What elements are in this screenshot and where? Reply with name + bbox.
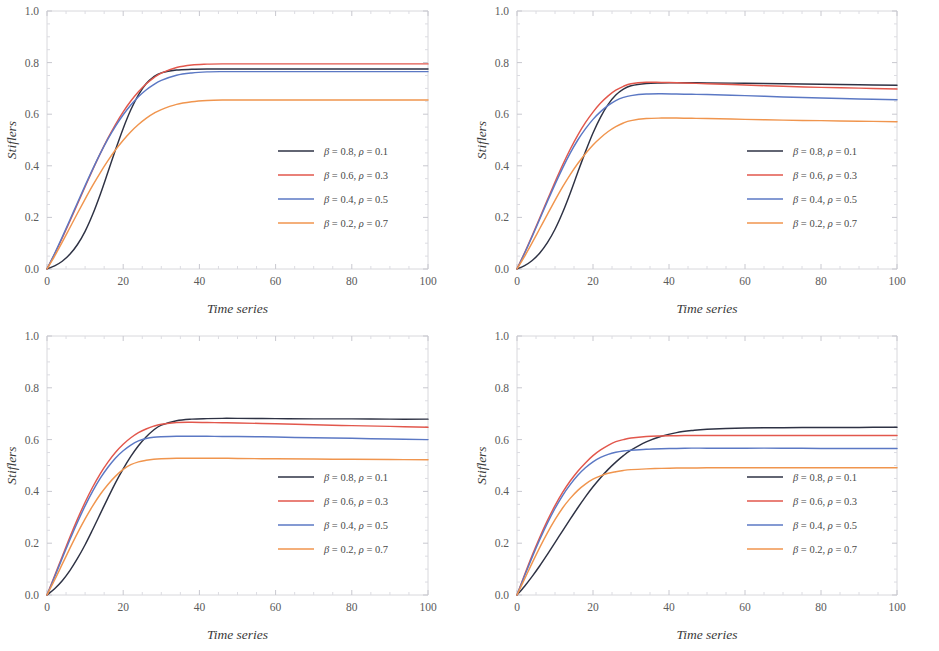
x-axis-title: Time series xyxy=(676,627,737,642)
y-tick-label: 1.0 xyxy=(25,5,40,17)
legend-item[interactable]: β = 0.6, ρ = 0.3 xyxy=(747,496,857,507)
legend-item[interactable]: β = 0.2, ρ = 0.7 xyxy=(278,218,388,229)
legend-label: β = 0.4, ρ = 0.5 xyxy=(323,194,388,205)
x-tick-label: 60 xyxy=(270,275,282,287)
legend-label: β = 0.6, ρ = 0.3 xyxy=(323,170,388,181)
legend-item[interactable]: β = 0.8, ρ = 0.1 xyxy=(278,146,388,157)
legend-item[interactable]: β = 0.4, ρ = 0.5 xyxy=(278,194,388,205)
y-tick-label: 0.0 xyxy=(25,263,40,275)
y-tick-label: 0.4 xyxy=(25,485,40,497)
y-tick-label: 0.0 xyxy=(25,589,40,601)
y-tick-label: 0.4 xyxy=(25,160,40,172)
x-tick-label: 40 xyxy=(663,275,675,287)
legend-label: β = 0.8, ρ = 0.1 xyxy=(792,472,857,483)
x-tick-label: 100 xyxy=(419,275,437,287)
y-axis-title: Stiflers xyxy=(474,446,489,484)
y-tick-label: 1.0 xyxy=(495,330,510,342)
x-tick-label: 100 xyxy=(888,601,906,613)
legend-label: β = 0.2, ρ = 0.7 xyxy=(323,218,388,229)
y-tick-label: 0.0 xyxy=(495,263,510,275)
legend-item[interactable]: β = 0.2, ρ = 0.7 xyxy=(747,544,857,555)
legend-label: β = 0.2, ρ = 0.7 xyxy=(792,544,857,555)
x-tick-label: 40 xyxy=(663,601,675,613)
y-tick-label: 0.6 xyxy=(495,434,510,446)
y-tick-label: 0.4 xyxy=(495,160,510,172)
chart-panel-top-right: 0204060801000.00.20.40.60.81.0Time serie… xyxy=(470,0,939,325)
legend-label: β = 0.8, ρ = 0.1 xyxy=(323,146,388,157)
y-tick-label: 0.2 xyxy=(25,537,40,549)
legend-item[interactable]: β = 0.6, ρ = 0.3 xyxy=(278,496,388,507)
y-axis-title: Stiflers xyxy=(4,446,19,484)
legend-item[interactable]: β = 0.8, ρ = 0.1 xyxy=(747,146,857,157)
chart-legend: β = 0.8, ρ = 0.1β = 0.6, ρ = 0.3β = 0.4,… xyxy=(278,472,388,555)
y-tick-label: 0.2 xyxy=(495,211,510,223)
y-tick-label: 0.8 xyxy=(25,382,40,394)
y-tick-label: 0.6 xyxy=(25,108,40,120)
x-tick-label: 60 xyxy=(270,601,282,613)
plot-frame xyxy=(517,336,897,595)
y-tick-label: 0.8 xyxy=(25,57,40,69)
legend-label: β = 0.4, ρ = 0.5 xyxy=(323,520,388,531)
figure-panel-grid: 0204060801000.00.20.40.60.81.0Time serie… xyxy=(0,0,939,651)
y-tick-label: 1.0 xyxy=(495,5,510,17)
x-axis-title: Time series xyxy=(207,627,268,642)
axis-ticks xyxy=(517,336,897,595)
legend-item[interactable]: β = 0.4, ρ = 0.5 xyxy=(747,194,857,205)
series-line-2 xyxy=(47,422,428,595)
x-tick-label: 60 xyxy=(739,275,751,287)
x-tick-label: 0 xyxy=(514,275,520,287)
axis-ticks xyxy=(47,11,428,269)
x-tick-label: 0 xyxy=(44,275,50,287)
x-tick-label: 40 xyxy=(194,275,206,287)
x-tick-label: 0 xyxy=(44,601,50,613)
x-tick-label: 40 xyxy=(194,601,206,613)
x-tick-label: 20 xyxy=(117,275,129,287)
legend-label: β = 0.2, ρ = 0.7 xyxy=(792,218,857,229)
legend-label: β = 0.6, ρ = 0.3 xyxy=(792,170,857,181)
legend-item[interactable]: β = 0.6, ρ = 0.3 xyxy=(278,170,388,181)
legend-label: β = 0.8, ρ = 0.1 xyxy=(323,472,388,483)
x-tick-label: 80 xyxy=(346,601,358,613)
chart-legend: β = 0.8, ρ = 0.1β = 0.6, ρ = 0.3β = 0.4,… xyxy=(747,146,857,229)
y-axis-title: Stiflers xyxy=(4,121,19,159)
x-tick-label: 100 xyxy=(419,601,437,613)
legend-item[interactable]: β = 0.8, ρ = 0.1 xyxy=(278,472,388,483)
legend-item[interactable]: β = 0.4, ρ = 0.5 xyxy=(278,520,388,531)
legend-label: β = 0.8, ρ = 0.1 xyxy=(792,146,857,157)
series-line-1 xyxy=(517,427,897,595)
legend-label: β = 0.4, ρ = 0.5 xyxy=(792,520,857,531)
plot-frame xyxy=(47,11,428,269)
legend-label: β = 0.6, ρ = 0.3 xyxy=(792,496,857,507)
y-tick-label: 0.0 xyxy=(495,589,510,601)
legend-item[interactable]: β = 0.6, ρ = 0.3 xyxy=(747,170,857,181)
x-tick-label: 80 xyxy=(346,275,358,287)
y-tick-label: 1.0 xyxy=(25,330,40,342)
chart-panel-top-left: 0204060801000.00.20.40.60.81.0Time serie… xyxy=(0,0,470,325)
chart-panel-bottom-left: 0204060801000.00.20.40.60.81.0Time serie… xyxy=(0,325,470,651)
legend-item[interactable]: β = 0.4, ρ = 0.5 xyxy=(747,520,857,531)
y-tick-label: 0.8 xyxy=(495,57,510,69)
x-tick-label: 0 xyxy=(514,601,520,613)
plot-frame xyxy=(517,11,897,269)
legend-item[interactable]: β = 0.2, ρ = 0.7 xyxy=(278,544,388,555)
x-axis-title: Time series xyxy=(676,301,737,316)
legend-item[interactable]: β = 0.8, ρ = 0.1 xyxy=(747,472,857,483)
x-tick-label: 20 xyxy=(587,275,599,287)
chart-panel-bottom-right: 0204060801000.00.20.40.60.81.0Time serie… xyxy=(470,325,939,651)
data-curves xyxy=(47,64,428,269)
y-axis-title: Stiflers xyxy=(474,121,489,159)
data-curves xyxy=(517,427,897,595)
x-tick-label: 100 xyxy=(888,275,906,287)
y-tick-label: 0.6 xyxy=(495,108,510,120)
y-tick-label: 0.6 xyxy=(25,434,40,446)
axis-ticks xyxy=(517,11,897,269)
legend-item[interactable]: β = 0.2, ρ = 0.7 xyxy=(747,218,857,229)
y-tick-label: 0.2 xyxy=(495,537,510,549)
series-line-2 xyxy=(517,435,897,595)
y-tick-label: 0.2 xyxy=(25,211,40,223)
plot-frame xyxy=(47,336,428,595)
x-tick-label: 80 xyxy=(815,601,827,613)
legend-label: β = 0.6, ρ = 0.3 xyxy=(323,496,388,507)
y-tick-label: 0.4 xyxy=(495,485,510,497)
x-tick-label: 20 xyxy=(587,601,599,613)
